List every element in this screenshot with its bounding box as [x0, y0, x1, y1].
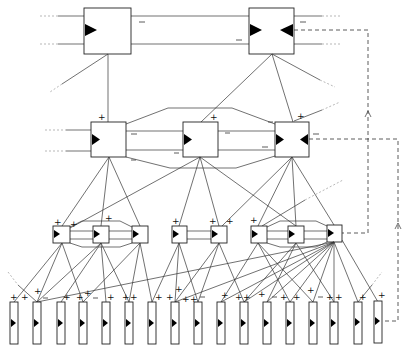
bottom-unit-5 [102, 302, 110, 344]
plus-sign: + [297, 111, 305, 121]
bottom-unit-6 [125, 302, 133, 344]
plus-sign: + [54, 217, 62, 227]
plus-sign: + [190, 294, 198, 304]
plus-sign: + [10, 292, 18, 302]
bottom-unit-4 [79, 302, 87, 344]
layer3: + + + + + + + [53, 213, 342, 247]
bottom-unit-2 [33, 302, 41, 344]
plus-sign: + [76, 292, 84, 302]
bottom-unit-10 [217, 302, 225, 344]
plus-sign: + [250, 215, 258, 225]
plus-sign: + [209, 216, 217, 226]
plus-sign: + [293, 292, 301, 302]
bottom-unit-7 [148, 302, 156, 344]
plus-sign: + [98, 112, 106, 122]
plus-sign: + [130, 292, 138, 302]
bottom-unit-16 [354, 302, 362, 344]
plus-sign: + [34, 286, 42, 296]
plus-sign: + [122, 292, 130, 302]
plus-sign: + [258, 289, 266, 299]
plus-sign: + [182, 294, 190, 304]
bottom-unit-1 [10, 302, 18, 344]
plus-sign: + [226, 216, 234, 226]
bottom-unit-11 [240, 302, 248, 344]
plus-sign: + [175, 284, 183, 294]
layer2 [45, 108, 319, 168]
hierarchical-network-diagram: + + + [0, 0, 405, 350]
bottom-unit-13 [286, 302, 294, 344]
plus-sign: + [359, 292, 367, 302]
plus-sign: + [326, 292, 334, 302]
plus-sign: + [63, 292, 71, 302]
plus-sign: + [307, 285, 315, 295]
top-to-layer2-connections: + + + [50, 54, 340, 122]
plus-sign: + [172, 216, 180, 226]
plus-sign: + [70, 219, 78, 229]
plus-sign: + [105, 213, 113, 223]
bottom-unit-8 [171, 302, 179, 344]
plus-sign: + [107, 292, 115, 302]
plus-sign: + [21, 292, 29, 302]
plus-sign: + [84, 288, 92, 298]
bottom-unit-15 [330, 302, 338, 344]
plus-sign: + [166, 292, 174, 302]
bottom-layer: + + + + + + + + + + + + + + + + + + + + … [10, 284, 386, 344]
top-layer [40, 8, 342, 54]
bottom-unit-17 [374, 301, 382, 343]
plus-sign: + [155, 292, 163, 302]
plus-sign: + [221, 290, 229, 300]
bottom-unit-14 [309, 302, 317, 344]
plus-sign: + [280, 292, 288, 302]
plus-sign: + [235, 292, 243, 302]
bottom-unit-3 [57, 302, 65, 344]
plus-sign: + [378, 290, 386, 300]
bottom-unit-12 [263, 302, 271, 344]
plus-sign: + [243, 292, 251, 302]
bottom-unit-9 [194, 302, 202, 344]
plus-sign: + [210, 112, 218, 122]
plus-sign: + [335, 292, 343, 302]
